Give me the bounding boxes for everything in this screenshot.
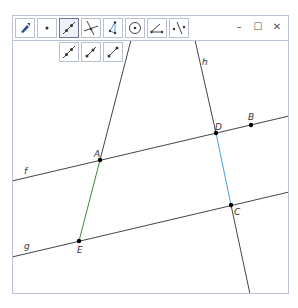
point-c[interactable] [229, 203, 233, 207]
segment-dc[interactable] [216, 133, 231, 205]
label-b: B [248, 112, 254, 122]
drawing-canvas[interactable]: A D B C E f g h [0, 0, 298, 308]
label-a: A [93, 149, 100, 159]
label-g: g [24, 241, 30, 251]
label-d: D [215, 122, 222, 132]
label-e: E [77, 245, 83, 255]
line-h-upper[interactable] [195, 40, 216, 133]
line-g[interactable] [12, 192, 289, 257]
line-a[interactable] [100, 40, 131, 160]
point-e[interactable] [77, 239, 81, 243]
line-h-lower[interactable] [231, 205, 250, 294]
label-f: f [24, 166, 29, 176]
label-h: h [202, 57, 208, 67]
line-f[interactable] [12, 116, 289, 181]
point-b[interactable] [249, 123, 253, 127]
label-c: C [234, 207, 241, 217]
segment-ae[interactable] [79, 160, 100, 241]
